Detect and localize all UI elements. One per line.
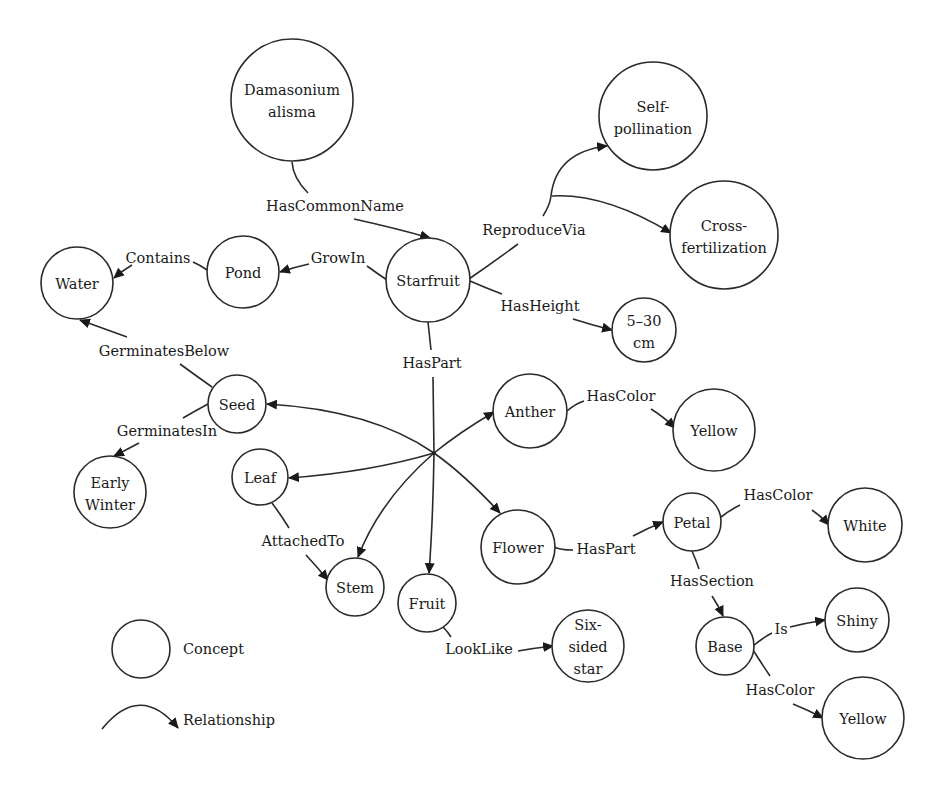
edge-look-like-out xyxy=(518,646,553,651)
node-label: Fruit xyxy=(409,596,446,612)
edge-has-part-trunk xyxy=(433,377,434,453)
node-label: Stem xyxy=(336,580,374,596)
node-stem[interactable]: Stem xyxy=(326,558,384,616)
edge-has-common-name-in xyxy=(292,162,308,193)
node-shiny[interactable]: Shiny xyxy=(825,588,889,652)
node-label-line-2: Winter xyxy=(85,497,135,513)
node-six-sided-star[interactable]: Six- sided star xyxy=(552,610,624,682)
node-fruit[interactable]: Fruit xyxy=(398,574,456,632)
node-label-line-1: Early xyxy=(91,475,131,491)
node-label: Starfruit xyxy=(396,273,460,289)
edge-label-contains: Contains xyxy=(125,250,190,266)
node-label-line-1: 5–30 xyxy=(627,313,662,329)
node-starfruit[interactable]: Starfruit xyxy=(386,238,470,322)
node-base[interactable]: Base xyxy=(696,617,754,675)
node-leaf[interactable]: Leaf xyxy=(232,449,288,505)
node-label-line-2: pollination xyxy=(614,121,692,137)
edge-base-has-color-out xyxy=(793,704,823,718)
edge-attached-to-out xyxy=(306,555,328,580)
node-label-line-3: star xyxy=(574,661,603,677)
hub-point xyxy=(432,451,436,455)
node-flower[interactable]: Flower xyxy=(481,510,555,584)
legend-relationship-label: Relationship xyxy=(183,712,275,728)
edge-is-out xyxy=(790,620,825,627)
edge-hub-anther xyxy=(434,412,494,453)
edge-flower-has-part-in xyxy=(554,547,573,550)
edge-is-in xyxy=(753,633,772,646)
edge-label-germinates-in: GerminatesIn xyxy=(117,423,217,439)
node-label: Yellow xyxy=(689,423,738,439)
node-label: Seed xyxy=(219,397,255,413)
edge-label-has-section: HasSection xyxy=(670,573,754,589)
node-label: Leaf xyxy=(244,470,278,486)
edge-grow-in-in xyxy=(367,266,387,280)
edge-label-look-like: LookLike xyxy=(445,641,513,657)
node-label: Pond xyxy=(225,265,262,281)
node-label-line-1: Damasonium xyxy=(244,82,340,98)
node-pond[interactable]: Pond xyxy=(207,236,279,308)
node-label: Anther xyxy=(504,404,556,420)
edge-anther-has-color-in xyxy=(567,401,584,411)
edge-has-height-out xyxy=(573,319,612,330)
edge-label-petal-has-color: HasColor xyxy=(744,487,813,503)
node-damasonium-alisma[interactable]: Damasonium alisma xyxy=(231,39,353,161)
node-yellow-anther[interactable]: Yellow xyxy=(673,389,755,471)
edge-contains-in xyxy=(193,262,207,270)
node-anther[interactable]: Anther xyxy=(493,374,567,448)
node-label-line-2: fertilization xyxy=(681,240,766,256)
node-label: White xyxy=(843,518,886,534)
legend-concept-label: Concept xyxy=(183,641,244,657)
legend: Concept Relationship xyxy=(102,620,275,729)
edge-contains-out xyxy=(114,265,132,278)
node-label: Water xyxy=(55,276,99,292)
edge-petal-has-color-in xyxy=(721,505,740,517)
node-white[interactable]: White xyxy=(828,488,902,562)
edge-germinates-below-in xyxy=(180,364,212,387)
edge-label-has-common-name: HasCommonName xyxy=(266,198,404,214)
edge-germinates-in-in xyxy=(183,404,208,418)
edge-label-reproduce-via: ReproduceVia xyxy=(482,222,586,238)
node-label-line-2: alisma xyxy=(268,104,316,120)
node-petal[interactable]: Petal xyxy=(663,493,721,551)
edge-has-section-in xyxy=(692,551,699,569)
edge-label-germinates-below: GerminatesBelow xyxy=(99,343,230,359)
node-label-line-2: sided xyxy=(568,639,607,655)
node-water[interactable]: Water xyxy=(41,247,113,319)
concept-map: HasCommonName GrowIn Contains Germinates… xyxy=(0,0,945,787)
node-label: Base xyxy=(707,639,742,655)
node-seed[interactable]: Seed xyxy=(208,375,266,433)
edge-label-base-has-color: HasColor xyxy=(746,682,815,698)
legend-relationship-symbol xyxy=(102,705,178,729)
node-label-line-1: Self- xyxy=(637,99,670,115)
node-label: Yellow xyxy=(838,711,887,727)
edge-has-part-in xyxy=(428,322,431,350)
edge-hub-flower xyxy=(434,453,500,513)
edge-petal-has-color-out xyxy=(812,510,829,525)
node-label-line-2: cm xyxy=(633,335,655,351)
node-label: Flower xyxy=(492,540,543,556)
node-height[interactable]: 5–30 cm xyxy=(612,298,676,362)
node-label: Petal xyxy=(674,515,711,531)
edge-label-is: Is xyxy=(774,621,787,637)
node-cross-fertilization[interactable]: Cross- fertilization xyxy=(670,181,778,289)
edge-reproduce-via-in xyxy=(469,244,518,279)
edge-anther-has-color-out xyxy=(651,409,675,428)
edge-germinates-below-out xyxy=(80,320,127,337)
edge-label-grow-in: GrowIn xyxy=(311,250,366,266)
edge-look-like-in xyxy=(443,627,451,637)
edge-label-anther-has-color: HasColor xyxy=(587,388,656,404)
edge-base-has-color-in xyxy=(753,650,770,676)
node-self-pollination[interactable]: Self- pollination xyxy=(599,62,707,170)
edge-hub-seed xyxy=(267,404,434,453)
edge-hub-fruit xyxy=(429,453,434,573)
edge-label-flower-has-part: HasPart xyxy=(576,541,635,557)
legend-concept-symbol xyxy=(112,620,170,678)
edge-label-has-height: HasHeight xyxy=(500,298,579,314)
edge-flower-has-part-out xyxy=(633,522,663,536)
edge-reproduce-via-stem xyxy=(543,196,551,216)
edge-has-height-in xyxy=(470,281,502,294)
node-yellow-base[interactable]: Yellow xyxy=(822,677,904,759)
edge-label-attached-to: AttachedTo xyxy=(260,533,344,549)
node-early-winter[interactable]: Early Winter xyxy=(74,456,146,528)
node-label: Shiny xyxy=(836,613,878,629)
